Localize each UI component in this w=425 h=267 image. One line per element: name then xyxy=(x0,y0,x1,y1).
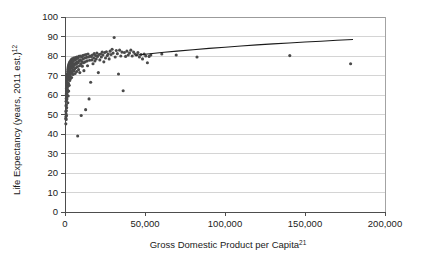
data-point xyxy=(77,68,80,71)
x-tick-label-50000: 50,000 xyxy=(130,218,159,229)
y-tick-label-60: 60 xyxy=(47,89,58,100)
data-point xyxy=(91,62,94,65)
data-point xyxy=(114,55,117,58)
data-point xyxy=(89,81,92,84)
y-tick-label-70: 70 xyxy=(47,70,58,81)
data-point xyxy=(65,106,68,109)
data-point xyxy=(107,53,110,56)
x-tick-label-100000: 100,000 xyxy=(208,218,242,229)
data-point xyxy=(82,69,85,72)
data-point xyxy=(288,54,291,57)
data-point xyxy=(136,51,139,54)
data-point xyxy=(84,108,87,111)
data-point xyxy=(108,57,111,60)
data-point xyxy=(122,89,125,92)
data-point xyxy=(116,52,119,55)
x-tick-label-150000: 150,000 xyxy=(288,218,322,229)
chart-container: 0102030405060708090100 050,000100,000150… xyxy=(0,0,425,267)
data-point xyxy=(113,36,116,39)
svg-text:Gross Domestic Product per Cap: Gross Domestic Product per Capita21 xyxy=(150,239,307,251)
y-tick-label-80: 80 xyxy=(47,50,58,61)
data-point xyxy=(81,65,84,68)
data-point xyxy=(101,53,104,56)
data-point xyxy=(119,54,122,57)
data-point xyxy=(112,52,115,55)
data-point xyxy=(131,54,134,57)
data-point xyxy=(66,101,69,104)
y-tick-label-50: 50 xyxy=(47,109,58,120)
data-point xyxy=(64,122,67,125)
y-axis-title-superscript: 12 xyxy=(11,45,18,53)
data-point xyxy=(102,60,105,63)
data-point xyxy=(70,76,73,79)
data-point xyxy=(125,50,128,53)
data-point xyxy=(146,61,149,64)
y-axis-title: Life Expectancy (years, 2011 est.)12 xyxy=(11,45,23,196)
y-axis-title-text: Life Expectancy (years, 2011 est.) xyxy=(11,52,22,195)
data-point xyxy=(78,71,81,74)
data-point xyxy=(86,64,89,67)
data-point xyxy=(76,134,79,137)
data-point xyxy=(97,71,100,74)
data-point xyxy=(175,53,178,56)
data-point xyxy=(111,48,114,51)
data-point xyxy=(195,55,198,58)
data-point xyxy=(117,72,120,75)
x-axis-title-text: Gross Domestic Product per Capita xyxy=(150,239,300,250)
y-tick-label-10: 10 xyxy=(47,187,58,198)
y-tick-label-100: 100 xyxy=(42,11,58,22)
data-point xyxy=(115,49,118,52)
data-point xyxy=(65,97,68,100)
data-point xyxy=(141,57,144,60)
scatter-chart: 0102030405060708090100 050,000100,000150… xyxy=(0,0,425,267)
y-tick-label-40: 40 xyxy=(47,128,58,139)
data-point xyxy=(65,109,68,112)
data-point xyxy=(128,52,131,55)
data-point xyxy=(67,90,70,93)
x-axis-title-superscript: 21 xyxy=(299,239,307,246)
data-point xyxy=(80,114,83,117)
data-point xyxy=(98,58,101,61)
data-point xyxy=(65,118,68,121)
svg-text:Life Expectancy (years, 2011 e: Life Expectancy (years, 2011 est.)12 xyxy=(11,45,23,196)
y-tick-label-0: 0 xyxy=(53,206,58,217)
x-tick-label-200000: 200,000 xyxy=(368,218,402,229)
data-point xyxy=(68,84,71,87)
y-tick-label-90: 90 xyxy=(47,31,58,42)
data-point xyxy=(144,54,147,57)
x-tick-label-0: 0 xyxy=(62,218,67,229)
y-tick-label-20: 20 xyxy=(47,167,58,178)
data-point xyxy=(349,62,352,65)
y-tick-label-30: 30 xyxy=(47,148,58,159)
data-point xyxy=(67,94,70,97)
x-axis-title: Gross Domestic Product per Capita21 xyxy=(150,239,307,251)
data-point xyxy=(129,49,132,52)
data-point xyxy=(65,114,68,117)
data-point xyxy=(88,97,91,100)
